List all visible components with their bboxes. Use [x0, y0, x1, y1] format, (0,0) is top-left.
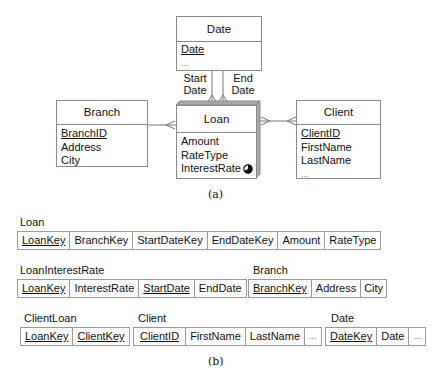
relationship-start-date-label: Start Date [180, 73, 210, 96]
table-clientloan-col-loankey: LoanKey [21, 328, 73, 345]
entity-date: Date Date ... [176, 16, 262, 71]
table-client-col-more: ... [305, 328, 321, 345]
entity-loan-attr-interestrate: InterestRate [181, 162, 241, 176]
entity-loan: Loan Amount RateType InterestRate [176, 105, 257, 179]
entity-loan-attr-amount: Amount [181, 135, 254, 149]
entity-client-title: Client [297, 101, 380, 125]
table-client-col-firstname: FirstName [186, 328, 246, 345]
table-branch-col-city: City [361, 280, 386, 297]
table-loaninterestrate-name: LoanInterestRate [20, 264, 104, 276]
table-loaninterestrate-col-interestrate: InterestRate [70, 280, 139, 297]
entity-client-attr-more: ... [301, 168, 378, 182]
entity-client-attr-clientid: ClientID [301, 127, 378, 141]
temporal-half-circle-icon [243, 164, 253, 174]
entity-branch-title: Branch [57, 101, 147, 125]
table-client: ClientID FirstName LastName ... [133, 327, 322, 346]
table-clientloan-col-clientkey: ClientKey [73, 328, 128, 345]
table-loaninterestrate-col-startdate: StartDate [139, 280, 194, 297]
table-branch-col-address: Address [312, 280, 361, 297]
table-branch: BranchKey Address City [248, 279, 387, 298]
entity-client-attr-lastname: LastName [301, 154, 378, 168]
table-date-name: Date [331, 312, 354, 324]
table-loan: LoanKey BranchKey StartDateKey EndDateKe… [17, 231, 381, 250]
end-date-label-line2: Date [228, 85, 258, 97]
entity-client-attr-firstname: FirstName [301, 141, 378, 155]
caption-a: (a) [208, 188, 223, 201]
table-client-col-lastname: LastName [246, 328, 305, 345]
table-loan-col-enddatekey: EndDateKey [208, 232, 279, 249]
table-loan-col-loankey: LoanKey [18, 232, 70, 249]
caption-b: (b) [208, 355, 224, 368]
table-client-col-clientid: ClientID [134, 328, 186, 345]
entity-branch: Branch BranchID Address City [56, 100, 148, 167]
table-loan-col-amount: Amount [278, 232, 325, 249]
entity-client: Client ClientID FirstName LastName ... [296, 100, 381, 179]
table-date-col-more: ... [409, 328, 425, 345]
table-loan-name: Loan [20, 216, 44, 228]
start-date-label-line2: Date [180, 85, 210, 97]
table-loan-col-ratetype: RateType [325, 232, 380, 249]
entity-date-title: Date [177, 17, 261, 42]
table-date-col-datekey: DateKey [326, 328, 377, 345]
table-loaninterestrate-col-enddate: EndDate [195, 280, 246, 297]
end-date-label-line1: End [228, 73, 258, 85]
entity-date-attr-date: Date [181, 43, 259, 57]
table-date-col-date: Date [377, 328, 409, 345]
table-loan-col-startdatekey: StartDateKey [133, 232, 207, 249]
entity-loan-attr-ratetype: RateType [181, 149, 254, 163]
table-branch-col-branchkey: BranchKey [249, 280, 312, 297]
entity-loan-title: Loan [177, 106, 256, 133]
table-clientloan: LoanKey ClientKey [20, 327, 130, 346]
table-branch-name: Branch [253, 264, 288, 276]
entity-branch-attr-branchid: BranchID [61, 127, 145, 141]
start-date-label-line1: Start [180, 73, 210, 85]
entity-branch-attr-address: Address [61, 141, 145, 155]
entity-branch-attr-city: City [61, 154, 145, 168]
table-date: DateKey Date ... [325, 327, 426, 346]
relationship-end-date-label: End Date [228, 73, 258, 96]
table-loaninterestrate: LoanKey InterestRate StartDate EndDate [17, 279, 247, 298]
table-loan-col-branchkey: BranchKey [70, 232, 133, 249]
table-clientloan-name: ClientLoan [24, 312, 77, 324]
entity-date-attr-more: ... [181, 57, 259, 71]
table-loaninterestrate-col-loankey: LoanKey [18, 280, 70, 297]
table-client-name: Client [138, 312, 166, 324]
